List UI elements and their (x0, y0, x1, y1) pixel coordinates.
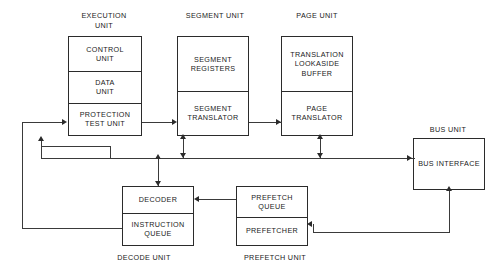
segment-unit-box: SEGMENT REGISTERS SEGMENT TRANSLATOR (177, 36, 249, 136)
arrowhead-to-prefetcher (307, 221, 312, 227)
diagram-canvas: EXECUTION UNIT SEGMENT UNIT PAGE UNIT BU… (0, 0, 501, 272)
page-unit-box: TRANSLATION LOOKASIDE BUFFER PAGE TRANSL… (281, 36, 353, 136)
conn-bus-stub-ptu (41, 146, 110, 147)
block-bus-interface: BUS INTERFACE (414, 139, 484, 189)
unit-title-bus-unit: BUS UNIT (413, 125, 483, 135)
arrowhead-bus-up-page-translator (317, 134, 323, 139)
arrowhead-bus-to-bus-interface (407, 155, 412, 161)
execution-unit-box: CONTROL UNIT DATA UNIT PROTECTION TEST U… (68, 36, 142, 136)
block-segment-registers: SEGMENT REGISTERS (178, 37, 248, 91)
conn-ptu-to-segment-translator (142, 122, 175, 123)
arrowhead-to-decoder (194, 196, 199, 202)
arrowhead-to-segment-translator (172, 119, 177, 125)
conn-bus-interface-down (449, 190, 450, 232)
arrowhead-to-page-translator (276, 119, 281, 125)
conn-bus-interface-to-prefetcher (313, 232, 450, 233)
block-protection-test-unit: PROTECTION TEST UNIT (69, 103, 141, 135)
arrowhead-bus-down-page-translator (317, 153, 323, 158)
conn-bus-stub-ptu-riser (110, 146, 111, 159)
conn-prefetcher-riser (313, 224, 314, 233)
conn-prefetch-queue-to-decoder (199, 199, 236, 200)
block-control-unit: CONTROL UNIT (69, 37, 141, 71)
unit-title-decode-unit: DECODE UNIT (103, 253, 185, 263)
conn-iq-left-segment (22, 228, 122, 229)
block-data-unit: DATA UNIT (69, 71, 141, 103)
unit-title-execution-unit: EXECUTION UNIT (68, 11, 140, 30)
block-prefetch-queue: PREFETCH QUEUE (237, 187, 307, 217)
arrowhead-to-bus-interface-bottom (446, 186, 452, 191)
internal-bus-line (41, 158, 415, 159)
block-prefetcher: PREFETCHER (237, 217, 307, 245)
block-instruction-queue: INSTRUCTION QUEUE (123, 213, 193, 245)
conn-iq-to-ptu-segment (22, 122, 64, 123)
arrowhead-bus-down-segment-translator (180, 153, 186, 158)
arrowhead-bus-up-segment-translator (180, 134, 186, 139)
block-segment-translator: SEGMENT TRANSLATOR (178, 91, 248, 135)
arrowhead-bus-down-decoder (155, 181, 161, 186)
unit-title-page-unit: PAGE UNIT (278, 11, 356, 21)
decode-unit-box: DECODER INSTRUCTION QUEUE (122, 186, 194, 246)
unit-title-segment-unit: SEGMENT UNIT (175, 11, 255, 21)
conn-iq-vertical-segment (22, 122, 23, 229)
block-page-translator: PAGE TRANSLATOR (282, 91, 352, 135)
arrowhead-bus-up-decoder (155, 154, 161, 159)
block-decoder: DECODER (123, 187, 193, 213)
unit-title-prefetch-unit: PREFETCH UNIT (232, 253, 318, 263)
bus-unit-box: BUS INTERFACE (413, 138, 485, 190)
conn-bus-to-ptu-vertical (41, 140, 42, 159)
arrowhead-to-protection-test-unit (62, 119, 67, 125)
arrowhead-bus-to-protection-test-unit (38, 136, 44, 141)
block-translation-lookaside-buffer: TRANSLATION LOOKASIDE BUFFER (282, 37, 352, 91)
prefetch-unit-box: PREFETCH QUEUE PREFETCHER (236, 186, 308, 246)
